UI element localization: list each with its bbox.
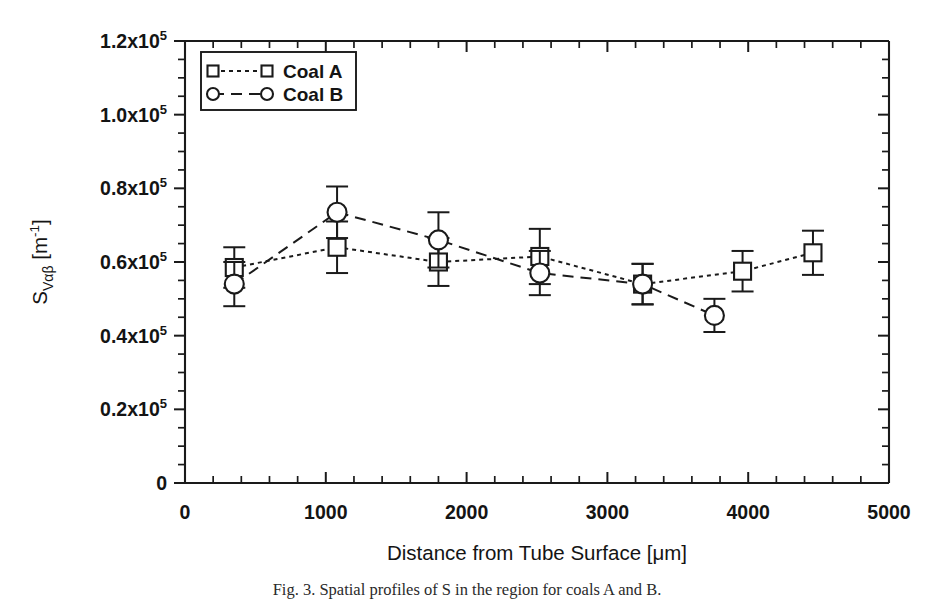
x-tick-label: 3000	[586, 501, 630, 523]
data-point-marker-circle	[429, 230, 448, 249]
x-tick-label: 0	[180, 501, 191, 523]
legend: Coal ACoal B	[201, 52, 356, 110]
series-line	[234, 247, 813, 284]
figure-root: 01000200030004000500000.2x1050.4x1050.6x…	[0, 0, 934, 603]
data-point-marker-circle	[530, 264, 549, 283]
x-tick-label: 1000	[304, 501, 348, 523]
y-tick-label: 0.8x105	[100, 175, 167, 199]
y-tick-label: 1.0x105	[100, 102, 167, 126]
legend-marker-square	[262, 66, 273, 77]
data-point-marker-square	[734, 263, 751, 280]
figure-caption: Fig. 3. Spatial profiles of S in the reg…	[0, 578, 934, 603]
data-point-marker-square	[329, 239, 346, 256]
y-axis-title-subscript: Vαβ	[40, 266, 56, 291]
y-axis-title-unit-close: ]	[28, 219, 51, 225]
y-tick-labels: 00.2x1050.4x1050.6x1050.8x1051.0x1051.2x…	[100, 28, 167, 494]
y-axis-title: SVαβ [m-1]	[27, 219, 56, 304]
y-tick-exponent: 5	[160, 249, 167, 264]
x-tick-label: 5000	[867, 501, 911, 523]
chart-canvas: 01000200030004000500000.2x1050.4x1050.6x…	[0, 0, 934, 575]
y-tick-label: 0.6x105	[100, 249, 167, 273]
y-tick-exponent: 5	[160, 102, 167, 117]
y-axis-title-unit: [m	[28, 237, 51, 265]
y-tick-exponent: 5	[160, 323, 167, 338]
legend-marker-square	[208, 66, 219, 77]
y-tick-exponent: 5	[160, 175, 167, 190]
y-tick-exponent: 5	[160, 28, 167, 43]
y-axis-title-exponent: -1	[27, 225, 42, 237]
x-tick-label: 2000	[445, 501, 489, 523]
y-tick-exponent: 5	[160, 396, 167, 411]
data-point-marker-circle	[225, 275, 244, 294]
series-coal-a	[223, 221, 824, 304]
data-point-marker-circle	[633, 275, 652, 294]
data-point-marker-square	[804, 244, 821, 261]
legend-marker-circle	[261, 88, 273, 100]
y-tick-label: 1.2x105	[100, 28, 167, 52]
y-tick-label: 0.2x105	[100, 396, 167, 420]
x-tick-labels: 010002000300040005000	[180, 501, 911, 523]
legend-label: Coal B	[283, 84, 343, 105]
y-tick-label: 0	[156, 472, 167, 494]
legend-label: Coal A	[283, 61, 343, 82]
legend-marker-circle	[207, 88, 219, 100]
data-point-marker-circle	[705, 306, 724, 325]
y-tick-label: 0.4x105	[100, 323, 167, 347]
x-axis-title: Distance from Tube Surface [μm]	[387, 541, 687, 564]
data-point-marker-circle	[328, 203, 347, 222]
y-axis-title-main: S	[28, 291, 51, 305]
x-tick-label: 4000	[727, 501, 771, 523]
